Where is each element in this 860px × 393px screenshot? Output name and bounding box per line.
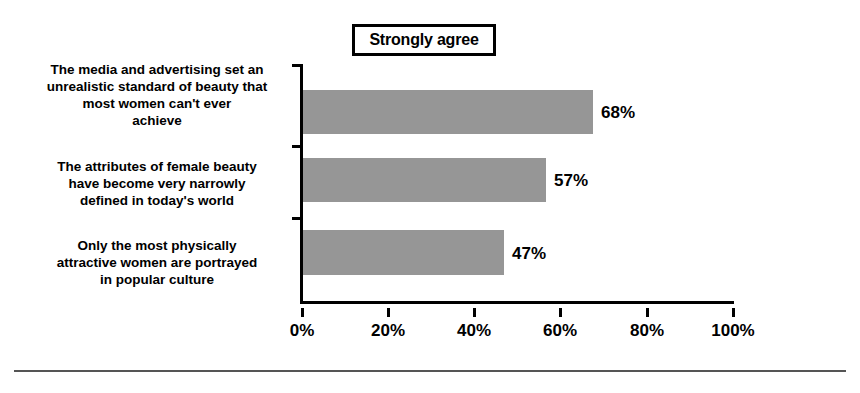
- x-axis-tick: [732, 308, 735, 317]
- category-label-line: Only the most physically: [26, 237, 288, 254]
- category-label-line: The attributes of female beauty: [26, 158, 288, 175]
- x-axis-tick: [646, 308, 649, 317]
- x-axis-tick-label: 20%: [371, 321, 405, 341]
- bar-series-3: [303, 230, 504, 275]
- category-label-line: in popular culture: [26, 271, 288, 288]
- x-axis-tick: [473, 308, 476, 317]
- y-axis-tick: [292, 145, 301, 148]
- x-axis-tick-label: 80%: [630, 321, 664, 341]
- x-axis-tick-label: 60%: [543, 321, 577, 341]
- category-label-line: most women can't ever: [26, 95, 288, 112]
- plot-area: 0% 20% 40% 60% 80% 100% 68% 57% 47% The …: [0, 0, 860, 393]
- x-axis-tick: [559, 308, 562, 317]
- bar-value-label: 57%: [554, 171, 588, 191]
- bar-value-label: 68%: [601, 103, 635, 123]
- x-axis-tick: [301, 308, 304, 317]
- category-label-line: have become very narrowly: [26, 175, 288, 192]
- category-label-line: The media and advertising set an: [26, 61, 288, 78]
- category-label-1: The media and advertising set an unreali…: [26, 61, 288, 129]
- x-axis-tick-label: 0%: [290, 321, 315, 341]
- y-axis-tick: [292, 64, 301, 67]
- bar-series-1: [303, 90, 593, 134]
- bar-value-label: 47%: [512, 244, 546, 264]
- category-label-line: unrealistic standard of beauty that: [26, 78, 288, 95]
- bar-series-2: [303, 158, 546, 202]
- chart-figure: Strongly agree 0% 20% 40% 60% 80% 100% 6…: [0, 0, 860, 393]
- category-label-3: Only the most physically attractive wome…: [26, 237, 288, 288]
- category-label-2: The attributes of female beauty have bec…: [26, 158, 288, 209]
- x-axis-tick-label: 40%: [457, 321, 491, 341]
- category-label-line: defined in today's world: [26, 192, 288, 209]
- x-axis-tick-label: 100%: [711, 321, 754, 341]
- x-axis-line: [300, 301, 734, 304]
- y-axis-tick: [292, 217, 301, 220]
- category-label-line: achieve: [26, 112, 288, 129]
- footer-rule: [14, 370, 846, 372]
- x-axis-tick: [387, 308, 390, 317]
- category-label-line: attractive women are portrayed: [26, 254, 288, 271]
